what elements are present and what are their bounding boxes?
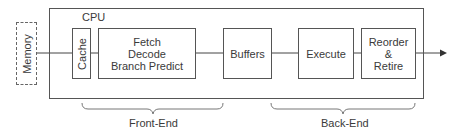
fetch-label: Fetch bbox=[133, 36, 161, 48]
memory-label: Memory bbox=[21, 34, 33, 74]
front-end-brace bbox=[82, 103, 223, 114]
branch-predict-label: Branch Predict bbox=[111, 60, 183, 72]
reorder-label: Reorder bbox=[369, 36, 409, 48]
cache-block: Cache bbox=[72, 28, 91, 79]
retire-label: Retire bbox=[374, 60, 403, 72]
arrow-head-icon bbox=[440, 50, 447, 57]
execute-block: Execute bbox=[298, 28, 354, 79]
memory-box: Memory bbox=[16, 22, 37, 85]
back-end-brace bbox=[271, 103, 415, 114]
front-end-label: Front-End bbox=[129, 117, 178, 129]
cache-label: Cache bbox=[76, 38, 88, 70]
fetch-decode-block: Fetch Decode Branch Predict bbox=[98, 28, 196, 79]
execute-label: Execute bbox=[306, 48, 346, 60]
decode-label: Decode bbox=[128, 48, 166, 60]
reorder-retire-block: Reorder & Retire bbox=[361, 28, 416, 79]
back-end-label: Back-End bbox=[321, 117, 369, 129]
buffers-block: Buffers bbox=[223, 28, 272, 79]
cpu-label: CPU bbox=[82, 11, 105, 23]
buffers-label: Buffers bbox=[230, 48, 265, 60]
ampersand-label: & bbox=[385, 48, 392, 60]
